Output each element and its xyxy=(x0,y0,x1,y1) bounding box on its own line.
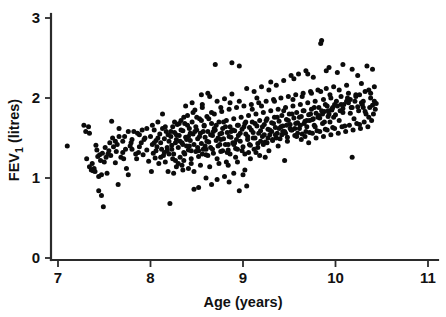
data-point xyxy=(352,99,357,104)
data-point xyxy=(302,134,307,139)
data-point xyxy=(331,84,336,89)
data-point xyxy=(182,152,187,157)
data-point xyxy=(204,147,209,152)
data-point xyxy=(240,148,245,153)
data-point xyxy=(158,155,163,160)
data-point xyxy=(281,108,286,113)
data-point xyxy=(176,161,181,166)
data-point xyxy=(243,120,248,125)
data-point xyxy=(237,188,242,193)
data-point xyxy=(191,187,196,192)
data-point xyxy=(234,105,239,110)
data-point xyxy=(343,129,348,134)
data-point xyxy=(207,164,212,169)
data-point xyxy=(228,129,233,134)
data-point xyxy=(155,120,160,125)
data-point xyxy=(241,104,246,109)
data-points-layer xyxy=(65,38,379,209)
data-point xyxy=(216,161,221,166)
data-point xyxy=(370,67,375,72)
data-point xyxy=(140,128,145,133)
data-point xyxy=(166,132,171,137)
data-point xyxy=(229,60,234,65)
data-point xyxy=(364,112,369,117)
data-point xyxy=(209,110,214,115)
data-point xyxy=(190,120,195,125)
x-axis-title: Age (years) xyxy=(204,294,283,310)
data-point xyxy=(354,121,359,126)
data-point xyxy=(348,111,353,116)
data-point xyxy=(204,176,209,181)
data-point xyxy=(281,78,286,83)
data-point xyxy=(238,131,243,136)
data-point xyxy=(101,204,106,209)
data-point xyxy=(114,149,119,154)
data-point xyxy=(327,120,332,125)
data-point xyxy=(197,134,202,139)
data-point xyxy=(311,75,316,80)
data-point xyxy=(170,124,175,129)
data-point xyxy=(259,84,264,89)
data-point xyxy=(254,96,259,101)
data-point xyxy=(235,160,240,165)
data-point xyxy=(244,184,249,189)
data-point xyxy=(334,99,339,104)
data-point xyxy=(273,132,278,137)
y-tick-label: 2 xyxy=(32,89,40,106)
data-point xyxy=(165,145,170,150)
data-point xyxy=(236,123,241,128)
data-point xyxy=(350,67,355,72)
data-point xyxy=(179,128,184,133)
y-axis-title-main: FEV xyxy=(6,153,22,182)
data-point xyxy=(120,150,125,155)
plot-canvas: FEV1 (litres) Age (years) 0123 7891011 xyxy=(0,0,446,317)
data-point xyxy=(272,99,277,104)
data-point xyxy=(298,123,303,128)
data-point xyxy=(237,99,242,104)
data-point xyxy=(324,86,329,91)
data-point xyxy=(285,139,290,144)
data-point xyxy=(337,118,342,123)
data-point xyxy=(189,156,194,161)
x-tick-label: 8 xyxy=(146,269,154,286)
data-point xyxy=(355,73,360,78)
data-point xyxy=(226,142,231,147)
data-point xyxy=(353,94,358,99)
data-point xyxy=(158,140,163,145)
data-point xyxy=(210,147,215,152)
data-point xyxy=(363,89,368,94)
data-point xyxy=(274,83,279,88)
data-point xyxy=(115,142,120,147)
data-point xyxy=(93,143,98,148)
data-point xyxy=(208,132,213,137)
data-point xyxy=(177,121,182,126)
data-point xyxy=(352,116,357,121)
data-point xyxy=(310,131,315,136)
data-point xyxy=(198,163,203,168)
data-point xyxy=(205,153,210,158)
data-point xyxy=(237,64,242,69)
data-point xyxy=(109,119,114,124)
data-point xyxy=(99,172,104,177)
data-point xyxy=(372,84,377,89)
data-point xyxy=(346,91,351,96)
data-point xyxy=(253,150,258,155)
data-point xyxy=(250,107,255,112)
data-point xyxy=(309,91,314,96)
data-point xyxy=(313,124,318,129)
data-point xyxy=(219,131,224,136)
data-point xyxy=(295,131,300,136)
data-point xyxy=(193,124,198,129)
data-point xyxy=(221,120,226,125)
data-point xyxy=(286,118,291,123)
data-point xyxy=(215,99,220,104)
data-point xyxy=(202,123,207,128)
data-point xyxy=(176,145,181,150)
data-point xyxy=(260,124,265,129)
data-point xyxy=(249,128,254,133)
data-point xyxy=(241,172,246,177)
data-point xyxy=(124,166,129,171)
data-point xyxy=(107,140,112,145)
data-point xyxy=(328,132,333,137)
data-point xyxy=(313,99,318,104)
